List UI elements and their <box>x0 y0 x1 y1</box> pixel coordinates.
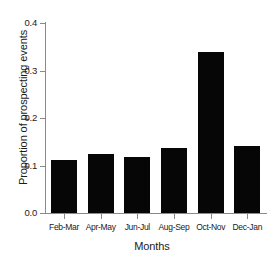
y-tick-mark-2 <box>40 118 45 119</box>
y-tick-label-4: 0.4 <box>2 18 37 28</box>
y-tick-mark-3 <box>40 71 45 72</box>
bar-apr-may <box>88 154 114 213</box>
x-axis-title: Months <box>38 240 266 252</box>
x-tick-mark-4 <box>211 214 212 219</box>
x-tick-label-dec-jan: Dec-Jan <box>223 222 271 232</box>
y-tick-mark-0 <box>40 213 45 214</box>
bar-aug-sep <box>161 148 187 214</box>
bar-jun-jul <box>124 157 150 214</box>
y-axis-line <box>45 22 46 214</box>
x-tick-mark-2 <box>137 214 138 219</box>
x-tick-mark-0 <box>64 214 65 219</box>
x-tick-mark-3 <box>174 214 175 219</box>
y-tick-mark-4 <box>40 23 45 24</box>
bar-feb-mar <box>51 160 77 213</box>
x-tick-mark-1 <box>101 214 102 219</box>
y-tick-mark-1 <box>40 166 45 167</box>
y-tick-label-1: 0.1 <box>2 161 37 171</box>
y-tick-label-2: 0.2 <box>2 113 37 123</box>
bar-chart-figure: Proportion of prospecting events 0.0 0.1… <box>0 0 275 265</box>
x-tick-mark-5 <box>247 214 248 219</box>
bar-oct-nov <box>198 52 224 213</box>
y-tick-label-3: 0.3 <box>2 66 37 76</box>
y-tick-label-0: 0.0 <box>2 208 37 218</box>
bar-dec-jan <box>234 146 260 213</box>
y-axis-title: Proportion of prospecting events <box>14 0 32 215</box>
x-axis-line <box>45 213 267 214</box>
